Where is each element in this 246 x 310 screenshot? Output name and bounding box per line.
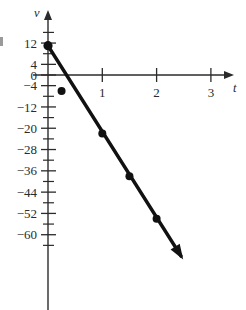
graph-svg: v t 1240−4−12−20−28−36−44−52−60 123: [0, 0, 246, 310]
x-label-3: 3: [208, 85, 215, 100]
page-edge-mark: [0, 37, 3, 46]
y-label-neg36: −36: [17, 163, 38, 178]
data-point-2: [98, 130, 106, 138]
data-point-1: [58, 87, 66, 95]
y-label-neg44: −44: [17, 185, 38, 200]
x-axis-label: t: [233, 81, 237, 95]
y-label-neg52: −52: [17, 206, 37, 221]
x-label-1: 1: [99, 85, 106, 100]
y-axis-label: v: [34, 6, 40, 20]
x-label-2: 2: [153, 85, 160, 100]
velocity-time-graph: v t 1240−4−12−20−28−36−44−52−60 123: [0, 0, 246, 310]
x-axis-arrowhead: [224, 71, 234, 79]
y-label-neg12: −12: [17, 100, 37, 115]
x-tick-labels: 123: [99, 85, 214, 100]
data-point-3: [125, 172, 133, 180]
y-axis-arrowhead: [44, 10, 52, 20]
y-label-neg60: −60: [17, 227, 37, 242]
y-tick-labels: 1240−4−12−20−28−36−44−52−60: [17, 36, 38, 243]
data-line-arrowhead: [171, 244, 184, 260]
data-point-4: [153, 215, 161, 223]
y-label-neg20: −20: [17, 121, 37, 136]
data-point-0: [43, 41, 52, 50]
y-label-neg4: −4: [23, 78, 37, 93]
data-series-line: [48, 46, 181, 256]
y-label-neg28: −28: [17, 142, 37, 157]
y-label-12: 12: [24, 36, 37, 51]
